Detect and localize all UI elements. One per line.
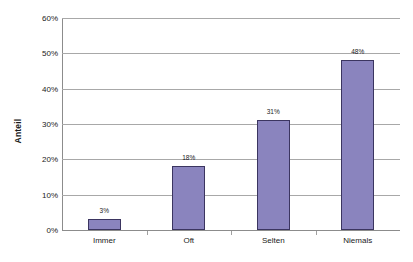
- y-axis-tick-label: 50%: [18, 49, 58, 58]
- x-axis-tick-mark: [231, 231, 232, 235]
- x-axis-tick-label: Niemals: [343, 236, 372, 245]
- x-axis-tick-mark: [316, 231, 317, 235]
- bar: [172, 166, 205, 230]
- bar-value-label: 3%: [100, 207, 109, 214]
- y-axis-tick-label: 10%: [18, 190, 58, 199]
- gridline: [62, 53, 400, 54]
- bar: [88, 219, 121, 230]
- gridline: [62, 18, 400, 19]
- bar: [341, 60, 374, 230]
- y-axis-tick-label: 40%: [18, 84, 58, 93]
- bar: [257, 120, 290, 230]
- x-axis-tick-mark: [147, 231, 148, 235]
- x-axis-tick-label: Selten: [262, 236, 285, 245]
- x-axis-tick-labels: ImmerOftSeltenNiemals: [62, 236, 400, 252]
- y-axis-tick-label: 0%: [18, 226, 58, 235]
- x-axis-tick-label: Oft: [183, 236, 194, 245]
- y-axis-tick-label: 20%: [18, 155, 58, 164]
- bar-value-label: 18%: [182, 154, 195, 161]
- bar-chart: Anteil 0%10%20%30%40%50%60% 3%18%31%48% …: [0, 0, 413, 262]
- x-axis-tick-label: Immer: [93, 236, 116, 245]
- y-axis-tick-labels: 0%10%20%30%40%50%60%: [14, 18, 58, 230]
- y-axis-tick-label: 30%: [18, 120, 58, 129]
- plot-area: 3%18%31%48%: [62, 18, 400, 230]
- bar-value-label: 31%: [267, 108, 280, 115]
- y-axis-tick-label: 60%: [18, 14, 58, 23]
- x-axis-tick-marks: [62, 231, 400, 235]
- bar-value-label: 48%: [351, 48, 364, 55]
